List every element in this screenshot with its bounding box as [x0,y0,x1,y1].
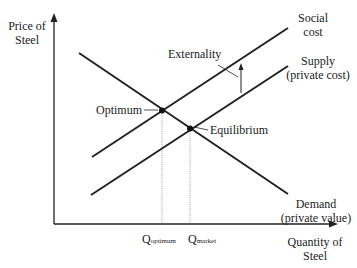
supply-label: Supply (private cost) [280,54,356,82]
externality-arrow-head-icon [239,63,244,70]
q-optimum-main: Q [142,232,151,246]
y-axis-label: Price of Steel [4,19,50,47]
externality-diagram [0,0,357,268]
x-axis-label-line2: Steel [280,249,350,263]
y-axis-label-line2: Steel [4,33,50,47]
social-cost-label: Social cost [290,11,336,39]
supply-label-line2: (private cost) [280,68,356,82]
demand-label-line2: (private value) [276,211,356,225]
q-optimum-label: Qoptimum [142,232,176,248]
equilibrium-point [187,126,193,132]
demand-label-line1: Demand [276,197,356,211]
externality-label: Externality [168,47,221,61]
equilibrium-label: Equilibrium [210,123,268,137]
y-axis-label-line1: Price of [4,19,50,33]
q-market-sub: market [197,237,216,245]
social-cost-label-line1: Social [290,11,336,25]
equilibrium-leader [194,127,208,130]
q-optimum-sub: optimum [151,237,176,245]
demand-label: Demand (private value) [276,197,356,225]
optimum-label: Optimum [96,103,142,117]
y-axis-arrow-icon [51,13,58,22]
q-market-main: Q [188,232,197,246]
supply-label-line1: Supply [280,54,356,68]
optimum-point [159,108,165,114]
x-axis-label-line1: Quantity of [280,235,350,249]
q-market-label: Qmarket [188,232,216,248]
social-cost-label-line2: cost [290,25,336,39]
x-axis-label: Quantity of Steel [280,235,350,263]
